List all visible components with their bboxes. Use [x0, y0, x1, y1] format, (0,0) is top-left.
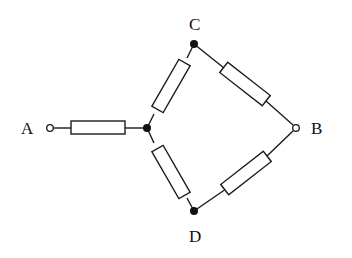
circuit-diagram: A B C D	[0, 0, 352, 258]
node-d	[190, 207, 198, 215]
branch-junction-d	[147, 128, 194, 211]
terminal-b	[293, 125, 300, 132]
wire	[266, 101, 293, 125]
label-d: D	[189, 227, 201, 246]
label-c: C	[189, 15, 200, 34]
node-c	[190, 40, 198, 48]
branch-junction-c	[147, 44, 194, 128]
label-a: A	[21, 119, 34, 138]
resistor-a-junction	[71, 121, 125, 134]
resistor-junction-d	[152, 145, 190, 198]
wire	[194, 189, 226, 211]
branch-c-b	[194, 44, 293, 125]
resistor-c-b	[220, 62, 271, 105]
label-b: B	[311, 119, 322, 138]
terminal-a	[47, 125, 54, 132]
resistor-junction-c	[152, 59, 190, 112]
wire	[194, 44, 224, 68]
branch-d-b	[194, 131, 293, 211]
junction-node	[143, 124, 151, 132]
branch-a-junction	[53, 121, 147, 134]
wire	[267, 131, 293, 156]
resistor-d-b	[221, 151, 272, 194]
